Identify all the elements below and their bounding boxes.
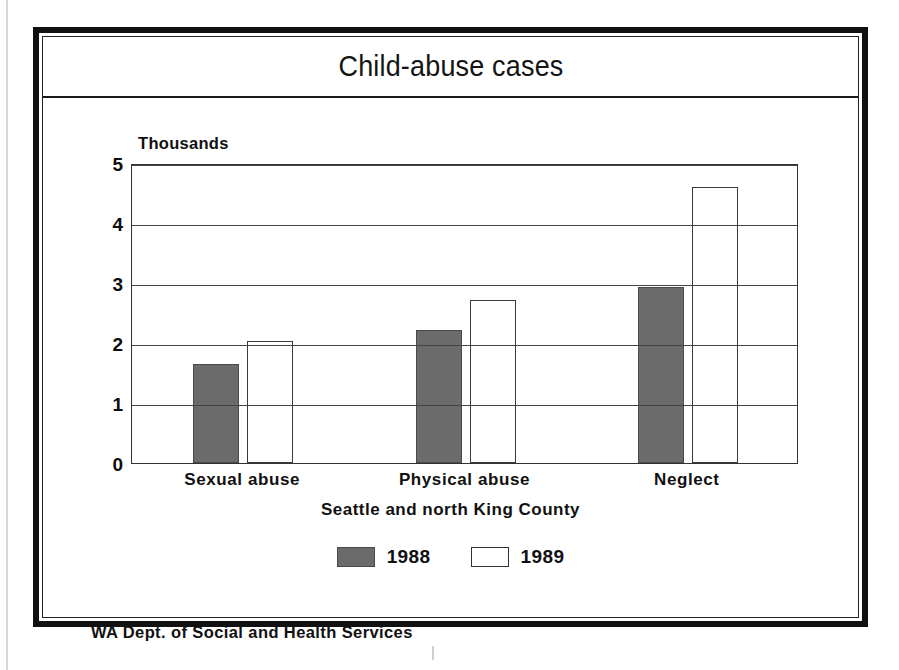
bars-layer	[132, 165, 797, 463]
bar-1989-sexual-abuse	[247, 341, 293, 463]
x-axis-category-label: Physical abuse	[399, 470, 530, 490]
gridline	[132, 285, 797, 286]
x-axis-category-label: Neglect	[654, 470, 720, 490]
y-axis-tick-label: 5	[112, 154, 123, 176]
y-axis-tick-label: 3	[112, 274, 123, 296]
chart-frame: Child-abuse cases Thousands 012345 Sexua…	[33, 27, 868, 627]
chart-frame-inner-border: Child-abuse cases Thousands 012345 Sexua…	[42, 36, 859, 618]
plot-area: 012345	[131, 164, 798, 464]
filled-gray-swatch-icon	[337, 547, 375, 567]
legend-item-1989: 1989	[471, 546, 565, 568]
page-title: Child-abuse cases	[338, 50, 563, 83]
x-axis-category-label: Sexual abuse	[184, 470, 300, 490]
chart-title-band: Child-abuse cases	[43, 37, 858, 98]
bar-1988-sexual-abuse	[193, 364, 239, 463]
gridline	[132, 165, 797, 166]
legend-item-1988: 1988	[337, 546, 431, 568]
gridline	[132, 405, 797, 406]
bar-1989-physical-abuse	[470, 300, 516, 463]
chart-legend: 1988 1989	[43, 546, 858, 568]
gridline	[132, 345, 797, 346]
plot-region: Thousands 012345 Sexual abusePhysical ab…	[43, 96, 858, 617]
y-axis-tick-label: 2	[112, 334, 123, 356]
y-axis-tick-label: 1	[112, 394, 123, 416]
y-axis-tick-label: 0	[112, 454, 123, 476]
y-axis-unit-label: Thousands	[138, 134, 229, 153]
outlined-white-swatch-icon	[471, 547, 509, 567]
y-axis-tick-label: 4	[112, 214, 123, 236]
bar-1988-physical-abuse	[416, 330, 462, 463]
bar-1989-neglect	[692, 187, 738, 463]
page-edge-line	[6, 0, 8, 670]
x-axis-caption: Seattle and north King County	[43, 500, 858, 520]
page-edge-tick	[432, 646, 434, 660]
bar-1988-neglect	[638, 287, 684, 463]
gridline	[132, 225, 797, 226]
source-attribution: WA Dept. of Social and Health Services	[91, 623, 413, 642]
legend-label-1989: 1989	[521, 546, 565, 568]
legend-label-1988: 1988	[387, 546, 431, 568]
